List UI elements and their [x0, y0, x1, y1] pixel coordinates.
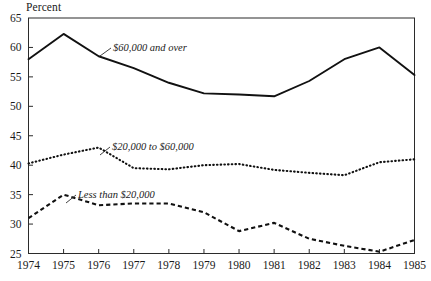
x-tick-label: 1982: [298, 259, 321, 271]
x-axis-tickmarks: [64, 249, 380, 254]
x-tick-label: 1978: [157, 259, 180, 271]
y-tick-label: 45: [10, 130, 22, 142]
x-axis-tick-labels: 1974 1975 1976 1977 1978 1979 1980 1981 …: [17, 259, 426, 271]
y-tick-label: 40: [10, 159, 22, 171]
x-tick-label: 1981: [263, 259, 286, 271]
x-tick-label: 1979: [192, 259, 215, 271]
chart-canvas: 25 30 35 40 45 50 55 60 65 1974 1975 197…: [0, 0, 431, 281]
x-tick-label: 1977: [122, 259, 145, 271]
y-axis-tickmarks: [29, 47, 34, 224]
y-axis-tick-labels: 25 30 35 40 45 50 55 60 65: [10, 12, 22, 260]
y-tick-label: 50: [10, 100, 22, 112]
annotation-leader-high: [100, 48, 111, 56]
series-line-20000-to-60000: [29, 148, 415, 176]
series-annotation-60000-and-over: $60,000 and over: [113, 42, 188, 53]
series-annotation-20000-to-60000: $20,000 to $60,000: [112, 141, 194, 152]
x-tick-label: 1974: [17, 259, 40, 271]
plot-frame: [29, 18, 415, 254]
y-tick-label: 55: [10, 71, 22, 83]
x-tick-label: 1975: [52, 259, 75, 271]
x-tick-label: 1983: [333, 259, 356, 271]
y-tick-label: 65: [10, 12, 22, 24]
line-chart: Percent 25 30 35 40 45 50 55 60 65 1974 …: [0, 0, 431, 281]
y-tick-label: 60: [10, 41, 22, 53]
x-tick-label: 1980: [228, 259, 251, 271]
series-line-less-than-20000: [29, 195, 415, 252]
y-tick-label: 35: [10, 189, 22, 201]
series-annotation-less-than-20000: Less than $20,000: [77, 189, 155, 200]
x-tick-label: 1985: [403, 259, 426, 271]
x-tick-label: 1984: [368, 259, 391, 271]
x-tick-label: 1976: [87, 259, 110, 271]
series-line-60000-and-over: [29, 34, 415, 96]
y-tick-label: 30: [10, 218, 22, 230]
